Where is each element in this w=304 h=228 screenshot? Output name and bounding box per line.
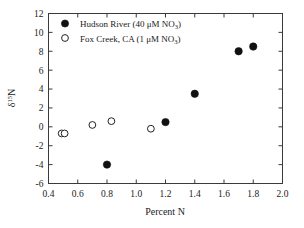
x-tick-label: 1.0 <box>130 189 142 199</box>
data-point-filled <box>162 118 169 125</box>
y-tick-label: -4 <box>36 160 44 170</box>
legend-label-hudson-river-tail: ) <box>178 19 181 29</box>
y-axis-title: δ15N <box>6 89 17 107</box>
data-point-filled <box>235 48 242 55</box>
series-hudson-river-points <box>103 43 257 168</box>
y-tick-label: -6 <box>36 179 44 189</box>
legend-label-hudson-river-main: Hudson River (40 μM NO <box>80 19 175 29</box>
y-tick-label: 0 <box>39 122 44 132</box>
figure-container: 0.40.60.81.01.21.41.61.82.0 121086420-2-… <box>0 0 304 228</box>
y-axis-title-element: N <box>6 89 17 96</box>
legend-label-fox-creek-tail: ) <box>178 34 181 44</box>
legend: Hudson River (40 μM NO3) Fox Creek, CA (… <box>61 19 181 45</box>
y-tick-label: 2 <box>39 103 44 113</box>
y-tick-label: 12 <box>34 9 44 19</box>
x-axis-tick-labels: 0.40.60.81.01.21.41.61.82.0 <box>43 189 289 199</box>
data-point-open <box>147 125 154 132</box>
x-tick-label: 1.8 <box>247 189 259 199</box>
x-tick-label: 0.8 <box>101 189 113 199</box>
legend-marker-fox-creek <box>62 35 69 42</box>
series-fox-creek-points <box>58 118 154 137</box>
scatter-plot: 0.40.60.81.01.21.41.61.82.0 121086420-2-… <box>0 0 304 228</box>
data-point-open <box>61 130 68 137</box>
data-point-open <box>89 122 96 129</box>
legend-label-hudson-river: Hudson River (40 μM NO3) <box>80 19 181 30</box>
x-tick-label: 2.0 <box>277 189 289 199</box>
x-tick-label: 1.2 <box>160 189 172 199</box>
y-tick-label: 8 <box>39 47 44 57</box>
y-tick-label: -2 <box>36 141 44 151</box>
x-tick-label: 1.6 <box>218 189 230 199</box>
y-axis-tick-labels: 121086420-2-4-6 <box>34 9 44 189</box>
x-tick-label: 1.4 <box>189 189 201 199</box>
legend-label-fox-creek: Fox Creek, CA (1 μM NO3) <box>80 34 181 45</box>
y-tick-label: 4 <box>39 84 44 94</box>
data-point-filled <box>191 90 198 97</box>
legend-marker-hudson-river <box>61 20 68 27</box>
data-point-filled <box>103 161 110 168</box>
x-axis-title: Percent N <box>145 206 185 217</box>
y-tick-label: 10 <box>34 28 44 38</box>
x-tick-label: 0.4 <box>43 189 55 199</box>
legend-label-fox-creek-main: Fox Creek, CA (1 μM NO <box>80 34 175 44</box>
data-point-filled <box>250 43 257 50</box>
data-point-open <box>108 118 115 125</box>
x-tick-label: 0.6 <box>72 189 84 199</box>
y-tick-label: 6 <box>39 66 44 76</box>
